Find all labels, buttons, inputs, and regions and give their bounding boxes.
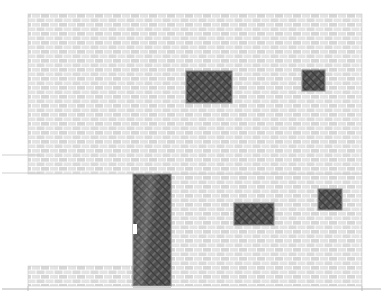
door-entrance-sheen — [133, 174, 171, 286]
elevation-svg — [0, 0, 383, 299]
window-upper-center[interactable] — [186, 71, 232, 103]
window-lower-center-glazing — [234, 203, 274, 225]
door-entrance[interactable] — [133, 174, 171, 286]
window-lower-right[interactable] — [318, 189, 342, 210]
window-lower-right-glazing — [318, 189, 342, 210]
window-upper-right[interactable] — [302, 70, 325, 91]
window-upper-center-glazing — [186, 71, 232, 103]
window-lower-center[interactable] — [234, 203, 274, 225]
door-handle-icon[interactable] — [133, 224, 137, 234]
elevation-drawing-canvas — [0, 0, 383, 299]
wall-lower-left-plinth — [28, 266, 133, 286]
wall-group — [28, 14, 362, 286]
door-threshold — [133, 286, 171, 288]
window-upper-right-glazing — [302, 70, 325, 91]
